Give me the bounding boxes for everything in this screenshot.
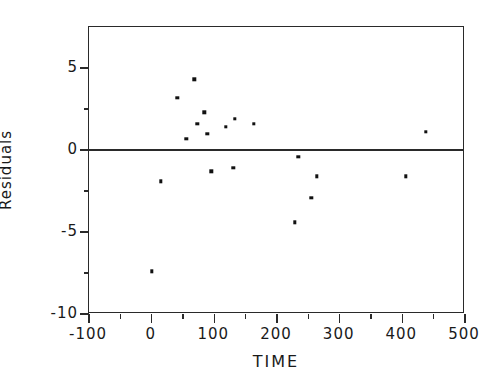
x-axis-tick — [88, 314, 90, 323]
zero-reference-line — [89, 149, 463, 151]
x-axis-title: TIME — [253, 352, 299, 371]
x-axis-tick-label: 0 — [145, 325, 156, 343]
y-axis-tick-label: 5 — [20, 58, 78, 76]
x-axis-tick-label: 500 — [448, 325, 480, 343]
data-point — [315, 175, 318, 178]
data-point — [203, 111, 206, 114]
x-axis-tick — [339, 314, 341, 323]
y-axis-minor-tick — [84, 272, 89, 274]
data-point — [150, 270, 153, 273]
y-axis-minor-tick — [84, 108, 89, 110]
y-axis-minor-tick — [84, 190, 89, 192]
y-axis-tick — [80, 231, 89, 233]
y-axis-tick — [80, 149, 89, 151]
data-point — [424, 130, 427, 133]
data-point — [206, 132, 209, 135]
x-axis-tick — [276, 314, 278, 323]
x-axis-tick — [402, 314, 404, 323]
data-point — [209, 170, 212, 173]
scatter-plot-figure: Residuals TIME 50-5-10-10001002003004005… — [0, 0, 501, 389]
x-axis-tick-label: 100 — [198, 325, 230, 343]
x-axis-tick-label: 200 — [260, 325, 292, 343]
x-axis-tick — [214, 314, 216, 323]
data-point — [224, 125, 227, 128]
data-point — [193, 78, 196, 81]
x-axis-minor-tick — [120, 314, 122, 319]
y-axis-tick-label: -5 — [20, 222, 78, 240]
data-point — [159, 179, 162, 182]
data-point — [404, 175, 407, 178]
data-point — [310, 196, 313, 199]
x-axis-minor-tick — [433, 314, 435, 319]
data-point — [196, 122, 199, 125]
data-point — [184, 137, 187, 140]
y-axis-tick-label: 0 — [20, 140, 78, 158]
plot-area — [88, 26, 464, 313]
data-point — [231, 166, 234, 169]
x-axis-minor-tick — [182, 314, 184, 319]
data-point — [293, 220, 296, 223]
y-axis-tick-label: -10 — [20, 304, 78, 322]
x-axis-tick-label: 400 — [386, 325, 418, 343]
x-axis-tick-label: 300 — [323, 325, 355, 343]
data-point — [233, 117, 236, 120]
data-point — [176, 96, 179, 99]
x-axis-tick — [151, 314, 153, 323]
x-axis-tick-label: -100 — [69, 325, 107, 343]
y-axis-title: Residuals — [0, 130, 15, 210]
x-axis-minor-tick — [308, 314, 310, 319]
x-axis-minor-tick — [370, 314, 372, 319]
data-point — [252, 122, 255, 125]
x-axis-minor-tick — [245, 314, 247, 319]
data-point — [297, 155, 300, 158]
x-axis-tick — [464, 314, 466, 323]
y-axis-tick — [80, 67, 89, 69]
